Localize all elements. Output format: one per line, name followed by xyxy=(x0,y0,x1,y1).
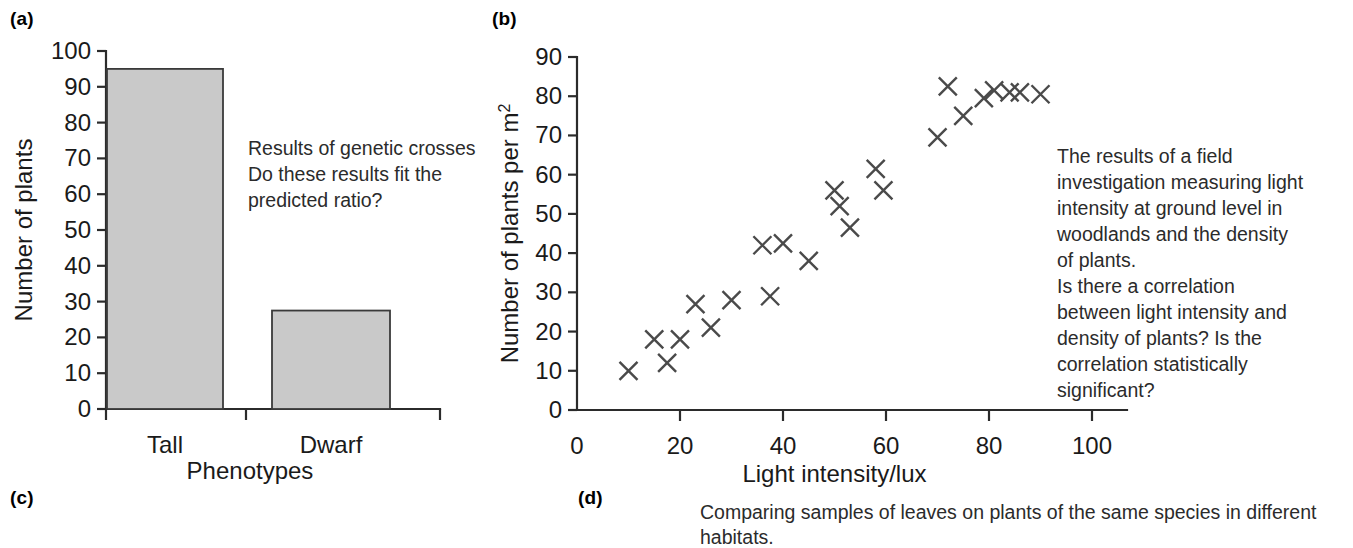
scatter-point-marker xyxy=(874,181,892,199)
scatter-point-marker xyxy=(929,128,947,146)
scatter-point-marker xyxy=(671,330,689,348)
y-axis-tick-label: 60 xyxy=(535,161,562,188)
scatter-points-group xyxy=(620,77,1050,379)
x-axis-tick-label: 0 xyxy=(570,432,583,459)
scatter-point-marker xyxy=(1032,85,1050,103)
y-axis-tick-label: 50 xyxy=(535,200,562,227)
scatter-point-marker xyxy=(867,160,885,178)
x-axis-tick-label: 20 xyxy=(667,432,694,459)
panel-label-c: (c) xyxy=(10,487,34,509)
scatter-point-marker xyxy=(774,234,792,252)
y-axis-tick-label: 10 xyxy=(535,357,562,384)
scatter-point-marker xyxy=(753,236,771,254)
x-axis-tick-label: 100 xyxy=(1072,432,1112,459)
scatter-point-marker xyxy=(975,89,993,107)
scatter-point-marker xyxy=(702,319,720,337)
y-axis-tick-label: 30 xyxy=(535,278,562,305)
panel-label-d: (d) xyxy=(578,487,603,509)
scatter-point-marker xyxy=(826,181,844,199)
y-axis-tick-label: 70 xyxy=(535,121,562,148)
scatter-point-marker xyxy=(939,77,957,95)
scatter-point-marker xyxy=(800,252,818,270)
scatter-point-marker xyxy=(1011,83,1029,101)
y-axis-tick-label: 90 xyxy=(535,43,562,70)
scatter-point-marker xyxy=(1001,83,1019,101)
x-axis-tick-label: 80 xyxy=(976,432,1003,459)
panel-d-caption: Comparing samples of leaves on plants of… xyxy=(700,500,1350,548)
y-axis-tick-label: 0 xyxy=(549,396,562,423)
scatter-point-marker xyxy=(954,107,972,125)
y-axis-title-superscript: 2 xyxy=(496,104,513,113)
scatter-point-marker xyxy=(645,330,663,348)
panel-b-note: The results of a field investigation mea… xyxy=(1057,143,1342,403)
x-axis-tick-label: 60 xyxy=(873,432,900,459)
y-axis-tick-label: 80 xyxy=(535,82,562,109)
scatter-point-marker xyxy=(723,291,741,309)
scatter-point-marker xyxy=(620,362,638,380)
y-axis-title: Number of plants per m2 xyxy=(496,104,524,364)
scatter-point-marker xyxy=(761,287,779,305)
y-axis-tick-label: 20 xyxy=(535,318,562,345)
y-axis-tick-label: 40 xyxy=(535,239,562,266)
scatter-point-marker xyxy=(658,354,676,372)
scatter-point-marker xyxy=(686,295,704,313)
x-axis-title: Light intensity/lux xyxy=(742,460,926,487)
scatter-point-marker xyxy=(841,219,859,237)
scatter-point-marker xyxy=(831,197,849,215)
x-axis-tick-label: 40 xyxy=(770,432,797,459)
